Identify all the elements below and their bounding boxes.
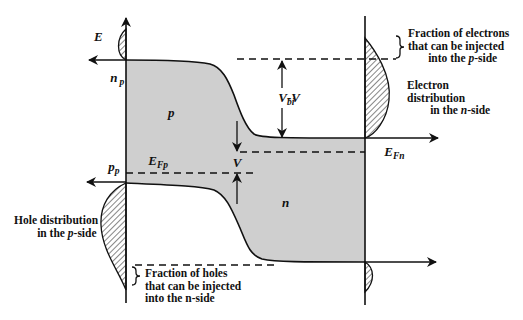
hole-fraction-line-1: Fraction of holes (145, 267, 228, 279)
hole-distribution-annotation: Hole distribution in the p-side (14, 214, 111, 240)
hole-fraction-line-3: into the n-side (145, 292, 215, 304)
fermi-level-n-label: EFn (368, 144, 414, 162)
hole-distribution-line-2: in the p-side (17, 227, 111, 240)
pn-junction-band-diagram: E np pp p n EFp EFn Vbi -V V Fraction of… (0, 0, 523, 320)
electron-fraction-annotation: Fraction of electrons that can be inject… (408, 27, 512, 65)
n-region-label: n (282, 195, 289, 210)
electron-tail-p-side (119, 29, 127, 60)
electron-distribution-line-2: distribution (407, 92, 466, 104)
hole-density-label: pp (92, 159, 129, 177)
hole-distribution-line-1: Hole distribution (14, 214, 99, 226)
applied-voltage-label: V (233, 155, 243, 170)
electron-fraction-brace (396, 36, 404, 58)
hole-tail-n-side (365, 262, 373, 292)
electron-distribution-n-side (365, 38, 389, 138)
electron-distribution-annotation: Electron distribution in the n-side (407, 79, 505, 116)
energy-axis-label: E (93, 29, 103, 44)
electron-distribution-line-1: Electron (407, 79, 450, 91)
hole-fraction-annotation: Fraction of holes that can be injected i… (145, 267, 242, 304)
electron-distribution-line-3: in the n-side (410, 104, 505, 116)
hole-fraction-brace (132, 267, 140, 285)
p-region-label: p (167, 105, 175, 120)
electron-fraction-line-3: into the p-side (408, 52, 512, 65)
electron-density-label: np (94, 70, 134, 88)
bias-subtraction-label: -V (287, 90, 301, 105)
electron-fraction-line-1: Fraction of electrons (408, 27, 510, 39)
